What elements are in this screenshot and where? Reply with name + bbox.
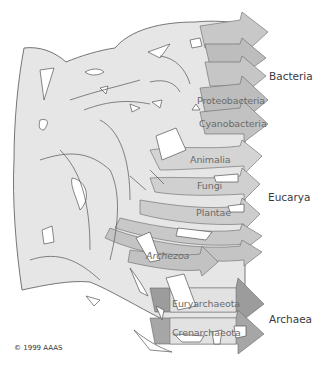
label-cyanobacteria: Cyanobacteria — [199, 118, 267, 129]
label-archezoa: Archezoa — [146, 250, 189, 261]
label-animalia: Animalia — [190, 154, 231, 165]
label-fungi: Fungi — [197, 180, 222, 191]
label-plantae: Plantae — [196, 207, 231, 218]
label-crenarchaeota: Crenarchaeota — [172, 327, 241, 338]
copyright-notice: © 1999 AAAS — [14, 344, 62, 352]
label-proteobacteria: Proteobacteria — [197, 95, 265, 106]
domain-label-archaea: Archaea — [269, 313, 312, 325]
domain-label-eucarya: Eucarya — [268, 191, 310, 203]
domain-label-bacteria: Bacteria — [269, 70, 313, 82]
label-euryarchaeota: Euryarchaeota — [172, 298, 240, 309]
